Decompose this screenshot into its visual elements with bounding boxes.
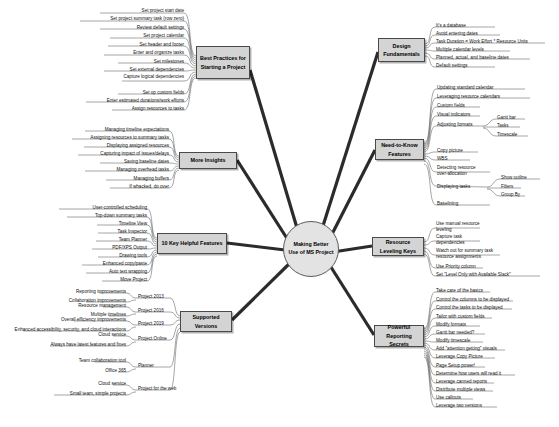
branch-design-fundamentals[interactable]: Design Fundamentals (378, 38, 425, 62)
leaf-item[interactable]: Saving baseline dates (10, 159, 169, 165)
leaf-item[interactable]: Enhanced copy/paste (10, 261, 147, 267)
leaf-item[interactable]: Control the columns to be displayed (436, 297, 509, 303)
leaf-item[interactable]: Team collaboration tool (10, 358, 126, 364)
leaf-item[interactable]: Top-down summary tasks (10, 213, 147, 219)
leaf-item[interactable]: Leverage two versions (436, 403, 482, 409)
leaf-item[interactable]: Determine how users will read it (436, 371, 501, 377)
branch-key-helpful-features[interactable]: 10 Key Helpful Features (157, 233, 227, 254)
leaf-item[interactable]: Visual indicators (437, 112, 470, 118)
version-group-label[interactable]: Project for the web (138, 386, 176, 392)
leaf-item[interactable]: Default settings (436, 63, 468, 69)
leaf-item[interactable]: Small team, simple projects (10, 391, 126, 397)
leaf-item[interactable]: Leveraging resource calendars (437, 94, 500, 100)
leaf-item[interactable]: Capturing impact of issues/delays (10, 151, 169, 157)
leaf-item[interactable]: Watch out for summary task resource assi… (436, 248, 504, 260)
leaf-item[interactable]: Set project calendar (20, 33, 184, 39)
leaf-item[interactable]: Use callouts (436, 395, 461, 401)
leaf-item[interactable]: WBS (437, 156, 447, 162)
leaf-item[interactable]: Multiple calendar levels (436, 47, 484, 53)
leaf-item[interactable]: Assigning resources to summary tasks (10, 135, 169, 141)
leaf-item[interactable]: Displaying tasks (437, 184, 470, 190)
leaf-item[interactable]: Leverage canned reports (436, 379, 487, 385)
leaf-item[interactable]: Office 365 (10, 368, 126, 374)
leaf-item[interactable]: Cloud service (10, 381, 126, 387)
leaf-item[interactable]: Baselining (437, 201, 458, 207)
leaf-item[interactable]: Enter estimated durations/work efforts (20, 98, 184, 104)
version-group-label[interactable]: Project 2016 (138, 308, 164, 314)
branch-label: Best Practices for Starting a Project (200, 54, 246, 71)
leaf-item[interactable]: Displaying assigned resources (10, 143, 169, 149)
leaf-item[interactable]: Resource management (10, 303, 126, 309)
leaf-item[interactable]: Task Inspector (10, 229, 147, 235)
branch-best-practices[interactable]: Best Practices for Starting a Project (196, 46, 250, 79)
leaf-item[interactable]: Copy picture (437, 148, 463, 154)
leaf-item[interactable]: Cloud service (10, 332, 126, 338)
leaf-item[interactable]: Capture task dependencies (436, 234, 486, 246)
leaf-item[interactable]: Planned, actual, and baseline dates (436, 55, 509, 61)
leaf-item[interactable]: Timeline View (10, 221, 147, 227)
leaf-item[interactable]: Gantt bar needed? (436, 330, 474, 336)
branch-label: 10 Key Helpful Features (161, 239, 222, 247)
leaf-item[interactable]: Drawing tools (10, 253, 147, 259)
version-group-label[interactable]: Project 2013 (138, 294, 164, 300)
leaf-item[interactable]: Auto text wrapping (10, 269, 147, 275)
leaf-item[interactable]: Managing timeline expectations (10, 127, 169, 133)
center-node-label: Making Better Use of MS Project (288, 241, 334, 257)
leaf-item[interactable]: Avoid entering dates (436, 31, 478, 37)
leaf-item[interactable]: Distribute multiple views (436, 387, 485, 393)
leaf-item[interactable]: Set external dependencies (20, 67, 184, 73)
sub-leaf-item[interactable]: Filters (501, 184, 513, 190)
leaf-item[interactable]: Tailor with custom fields (436, 314, 485, 320)
leaf-item[interactable]: Set project start date (20, 8, 184, 14)
leaf-item[interactable]: Use manual resource leveling (436, 221, 486, 233)
leaf-item[interactable]: Reporting improvements (10, 289, 126, 295)
leaf-item[interactable]: Always have latest features and fixes (10, 342, 126, 348)
leaf-item[interactable]: Managing buffers (10, 176, 169, 182)
leaf-item[interactable]: Managing overhead tasks (10, 167, 169, 173)
leaf-item[interactable]: Team Planner (10, 237, 147, 243)
sub-leaf-item[interactable]: Tasks (497, 123, 509, 129)
version-group-label[interactable]: Project Online (138, 336, 167, 342)
leaf-item[interactable]: Add "attention getting" visuals (436, 346, 497, 352)
leaf-item[interactable]: It's a database (436, 23, 466, 29)
leaf-item[interactable]: Detecting resource over-allocation (437, 165, 487, 177)
leaf-item[interactable]: Modify timescale (436, 338, 470, 344)
leaf-item[interactable]: Capture logical dependencies (122, 74, 184, 80)
leaf-item[interactable]: Custom fields (437, 103, 465, 109)
leaf-item[interactable]: Updating standard calendar (437, 85, 493, 91)
leaf-item[interactable]: Overall efficiency improvements (10, 317, 126, 323)
leaf-item[interactable]: Take care of the basics (436, 288, 483, 294)
leaf-item[interactable]: PDF/XPS Output (10, 245, 147, 251)
branch-resource-leveling-keys[interactable]: Resource Leveling Keys (372, 237, 424, 256)
leaf-item[interactable]: Set header and footer (20, 42, 184, 48)
branch-more-insights[interactable]: More Insights (179, 152, 237, 169)
leaf-item[interactable]: Page Setup power! (436, 363, 475, 369)
leaf-item[interactable]: Control the tasks to be displayed (436, 305, 503, 311)
leaf-item[interactable]: Move Project (10, 277, 147, 283)
leaf-item[interactable]: Set "Level Only with Available Slack" (436, 272, 511, 278)
leaf-item[interactable]: Leverage Copy Picture (436, 354, 483, 360)
leaf-item[interactable]: If whacked, do over (10, 184, 169, 190)
sub-leaf-item[interactable]: Timescale (497, 132, 517, 138)
version-group-label[interactable]: Project 2019 (138, 321, 164, 327)
leaf-item[interactable]: User-controlled scheduling (10, 205, 147, 211)
leaf-item[interactable]: Use Priority column (436, 264, 476, 270)
sub-leaf-item[interactable]: Group By (501, 192, 520, 198)
branch-powerful-reporting-secrets[interactable]: Powerful Reporting Secrets (374, 325, 424, 347)
center-node[interactable]: Making Better Use of MS Project (283, 221, 339, 277)
leaf-item[interactable]: Task Duration = Work Effort * Resource U… (436, 39, 528, 45)
leaf-item[interactable]: Adjusting formats (437, 122, 473, 128)
leaf-item[interactable]: Enter and organize tasks (20, 50, 184, 56)
branch-supported-versions[interactable]: Supported Versions (180, 311, 232, 332)
branch-label: Powerful Reporting Secrets (378, 323, 420, 348)
sub-leaf-item[interactable]: Gantt bar (497, 115, 516, 121)
sub-leaf-item[interactable]: Show outline (501, 175, 527, 181)
leaf-item[interactable]: Set project summary task (row zero) (20, 16, 184, 22)
branch-need-to-know-features[interactable]: Need-to-Know Features (375, 139, 424, 160)
leaf-item[interactable]: Modify formats (436, 322, 466, 328)
version-group-label[interactable]: Planner (138, 363, 154, 369)
leaf-item[interactable]: Assign resources to tasks (20, 106, 184, 112)
leaf-item[interactable]: Set up custom fields (20, 90, 184, 96)
leaf-item[interactable]: Set milestones (20, 59, 184, 65)
leaf-item[interactable]: Review default settings (20, 25, 184, 31)
